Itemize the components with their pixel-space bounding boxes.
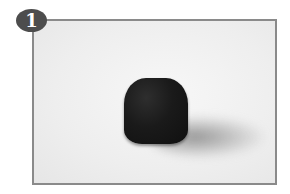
step-number-badge: 1 (16, 9, 47, 32)
photo-frame (32, 19, 277, 185)
dark-object (124, 78, 188, 144)
